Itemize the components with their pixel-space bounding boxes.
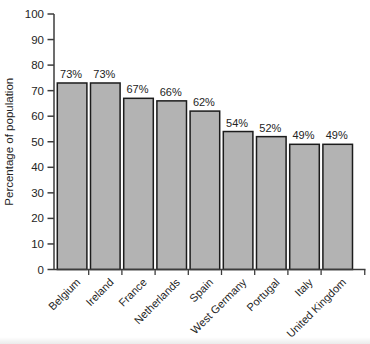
bar-value-label: 66% [160, 86, 182, 98]
bar-spain [190, 111, 220, 269]
bar-ireland [91, 83, 121, 270]
x-category-label: Spain [187, 276, 215, 304]
bar-portugal [257, 137, 287, 270]
y-tick-label: 70 [31, 85, 44, 97]
bars [57, 83, 352, 270]
x-category-label: United Kingdom [284, 276, 348, 340]
bar-value-label: 62% [193, 96, 215, 108]
bar-value-label: 54% [226, 117, 248, 129]
bar-west-germany [223, 132, 253, 270]
bar-value-label: 52% [259, 122, 281, 134]
bar-belgium [57, 83, 87, 270]
bar-netherlands [157, 101, 187, 270]
bar-value-label: 73% [60, 68, 82, 80]
bar-united-kingdom [323, 144, 353, 269]
x-axis-labels: BelgiumIrelandFranceNetherlandsSpainWest… [46, 276, 348, 340]
y-tick-label: 20 [31, 212, 44, 224]
bar-chart-figure: 010203040506070809010073%73%67%66%62%54%… [0, 0, 370, 344]
x-category-label: France [116, 276, 149, 309]
bar-value-label: 49% [292, 129, 314, 141]
bar-value-label: 73% [93, 68, 115, 80]
y-tick-label: 40 [31, 161, 44, 173]
y-tick-label: 100 [25, 8, 44, 20]
y-tick-label: 30 [31, 187, 44, 199]
y-tick-label: 60 [31, 110, 44, 122]
y-tick-label: 50 [31, 136, 44, 148]
y-tick-label: 10 [31, 238, 44, 250]
x-axis-ticks [89, 270, 365, 276]
y-axis-ticks: 0102030405060708090100 [25, 8, 54, 276]
bar-value-label: 67% [126, 83, 148, 95]
bar-value-label: 49% [326, 129, 348, 141]
x-category-label: Belgium [46, 276, 83, 313]
x-category-label: Ireland [83, 276, 115, 308]
bar-chart: 010203040506070809010073%73%67%66%62%54%… [0, 0, 370, 344]
y-tick-label: 80 [31, 59, 44, 71]
bar-france [124, 98, 154, 269]
x-category-label: Italy [292, 276, 315, 299]
y-axis-title: Percentage of population [3, 78, 15, 206]
x-category-label: Portugal [244, 276, 281, 313]
y-tick-label: 0 [38, 264, 44, 276]
bar-italy [290, 144, 320, 269]
y-tick-label: 90 [31, 34, 44, 46]
